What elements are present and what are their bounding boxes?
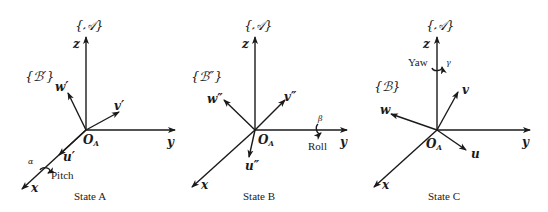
v-axis-arrow [255, 100, 285, 130]
y-axis-label: y [521, 135, 530, 149]
world-frame-label: {𝒜} [426, 18, 455, 33]
u-axis-label: u′ [63, 150, 76, 164]
w-axis-arrow [391, 114, 437, 130]
origin-label: OA [258, 133, 274, 148]
roll-rotation-icon [316, 124, 321, 134]
w-axis-arrow [68, 93, 86, 130]
w-axis-label: w′ [55, 80, 69, 94]
u-axis-label: u″ [245, 159, 260, 173]
z-axis-label: z [422, 37, 431, 51]
v-axis-label: v″ [284, 90, 297, 104]
world-frame-label: {𝒜} [75, 18, 104, 33]
caption-state-a: State A [74, 190, 106, 202]
yaw-label: Yaw [408, 56, 428, 68]
caption-state-b: State B [243, 190, 275, 202]
w-axis-label: w″ [207, 92, 223, 106]
world-frame-label: {𝒜} [244, 18, 273, 33]
v-axis-label: v [462, 83, 470, 97]
x-axis-label: x [30, 181, 39, 195]
x-axis-label: x [200, 178, 209, 192]
origin-label: OA [426, 137, 442, 152]
body-frame-label: {ℬ″} [191, 69, 222, 84]
coordinate-frames-diagram: {𝒜} z y x {ℬ′} w′ v′ u′ OA α Pitch State… [0, 0, 548, 212]
u-axis-label: u [471, 147, 480, 161]
z-axis-label: z [241, 37, 250, 51]
y-axis-label: y [339, 135, 348, 149]
roll-label: Roll [308, 140, 327, 152]
caption-state-c: State C [428, 190, 460, 202]
v-axis-arrow [437, 92, 458, 130]
pitch-angle-label: α [28, 157, 34, 166]
pitch-label: Pitch [51, 169, 74, 181]
v-axis-label: v′ [114, 99, 125, 113]
roll-angle-label: β [317, 114, 323, 123]
w-axis-label: w [380, 103, 391, 117]
z-axis-label: z [72, 37, 81, 51]
w-axis-arrow [224, 100, 255, 130]
panel-state-c: {𝒜} z y x {ℬ} w v u OA Yaw γ State C [374, 18, 530, 202]
body-frame-label: {ℬ} [374, 79, 401, 94]
body-frame-label: {ℬ′} [25, 69, 55, 84]
y-axis-label: y [166, 135, 175, 149]
panel-state-a: {𝒜} z y x {ℬ′} w′ v′ u′ OA α Pitch State… [22, 18, 175, 202]
x-axis-label: x [381, 178, 390, 192]
v-axis-arrow [86, 112, 119, 130]
yaw-angle-label: γ [446, 58, 451, 67]
origin-label: OA [83, 133, 99, 148]
panel-state-b: {𝒜} z y x {ℬ″} w″ v″ u″ OA β Roll State … [191, 18, 348, 202]
